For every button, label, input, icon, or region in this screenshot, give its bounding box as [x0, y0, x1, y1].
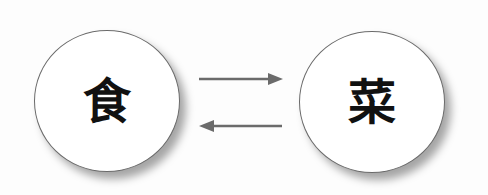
node-sai-circle: 菜: [299, 31, 445, 173]
arrow-right-icon: [199, 73, 283, 85]
arrow-left-icon: [199, 120, 282, 132]
node-sai-label: 菜: [348, 78, 396, 126]
